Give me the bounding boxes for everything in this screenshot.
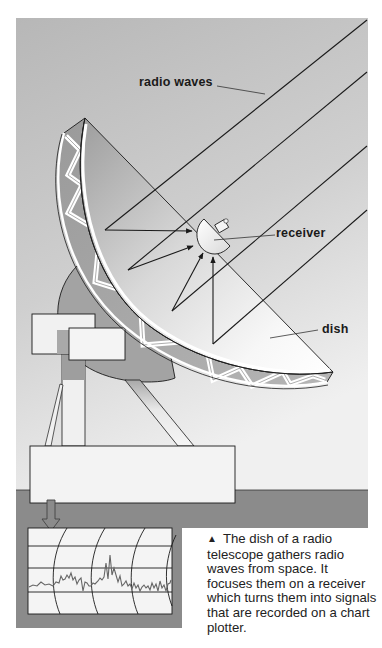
label-receiver: receiver	[276, 226, 326, 240]
base-housing	[30, 446, 235, 503]
label-dish: dish	[322, 322, 349, 336]
counterweight-block-front	[69, 328, 125, 360]
figure-caption: ▲The dish of a radio telescope gathers r…	[207, 532, 377, 635]
label-radio-waves: radio waves	[139, 75, 213, 89]
triangle-marker-icon: ▲	[207, 533, 217, 544]
chart-plotter	[28, 528, 176, 614]
caption-text: The dish of a radio telescope gathers ra…	[207, 531, 376, 635]
